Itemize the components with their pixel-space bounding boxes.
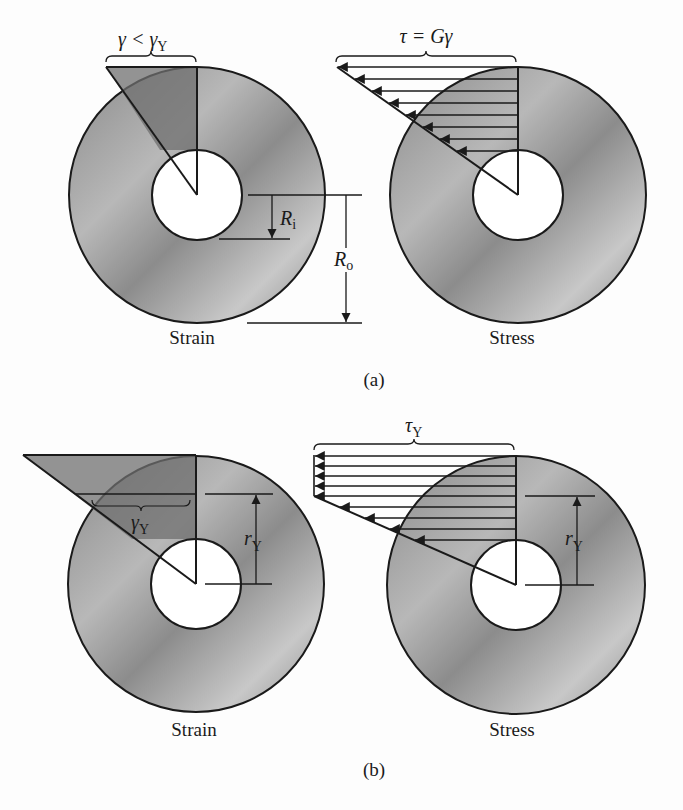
- caption-a: (a): [363, 369, 384, 391]
- strain-label-b: Strain: [171, 719, 217, 740]
- panel-a: γ < γY Ri Ro Strain: [69, 25, 646, 391]
- stress-label-b: Stress: [489, 719, 534, 740]
- strain-limit-label: γ < γY: [118, 28, 167, 54]
- stress-formula-label: τ = Gγ: [400, 25, 454, 48]
- tau-y-label: τY: [405, 414, 422, 440]
- caption-b: (b): [363, 759, 385, 781]
- stress-diagram-a: τ = Gγ Stress: [336, 25, 646, 348]
- strain-diagram-b: γY rY Strain: [23, 455, 324, 740]
- stress-brace: [336, 51, 516, 62]
- torsion-diagram: γ < γY Ri Ro Strain: [0, 0, 683, 810]
- panel-b: γY rY Strain: [23, 414, 645, 781]
- stress-label-a: Stress: [489, 327, 534, 348]
- strain-brace: [106, 51, 196, 62]
- stress-diagram-b: τY rY Stress: [314, 414, 645, 740]
- tau-y-brace: [314, 439, 514, 450]
- strain-diagram-a: γ < γY Ri Ro Strain: [69, 28, 363, 348]
- strain-label-a: Strain: [169, 327, 215, 348]
